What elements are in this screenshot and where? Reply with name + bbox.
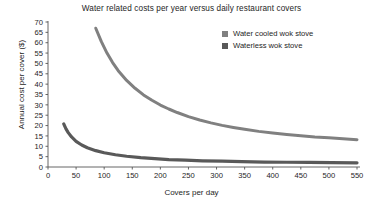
y-tick-label: 50: [35, 59, 43, 68]
x-tick-label: 300: [210, 171, 223, 180]
y-tick-label: 30: [35, 101, 43, 110]
x-tick-label: 0: [46, 171, 50, 180]
y-tick-label: 60: [35, 38, 43, 47]
series-line-2: [64, 124, 357, 163]
x-tick-label: 50: [72, 171, 80, 180]
x-tick-label: 100: [98, 171, 111, 180]
y-tick-label: 5: [39, 152, 43, 161]
y-tick-label: 35: [35, 90, 43, 99]
y-tick-label: 40: [35, 80, 43, 89]
y-tick-label: 55: [35, 49, 43, 58]
x-tick-label: 350: [238, 171, 251, 180]
x-tick-label: 200: [154, 171, 167, 180]
y-tick-label: 70: [35, 18, 43, 27]
y-tick-label: 65: [35, 28, 43, 37]
x-tick-label: 450: [294, 171, 307, 180]
y-tick-label: 0: [39, 163, 43, 172]
chart-root: Water related costs per year versus dail…: [0, 0, 383, 209]
x-tick-label: 250: [182, 171, 195, 180]
y-tick-label: 45: [35, 69, 43, 78]
series-line-1: [96, 28, 357, 139]
y-tick-label: 10: [35, 142, 43, 151]
x-tick-label: 550: [351, 171, 364, 180]
x-tick-label: 400: [266, 171, 279, 180]
x-tick-label: 150: [126, 171, 139, 180]
plot-area: 0510152025303540455055606570050100150200…: [0, 0, 383, 209]
x-tick-label: 500: [323, 171, 336, 180]
y-tick-label: 15: [35, 132, 43, 141]
y-tick-label: 25: [35, 111, 43, 120]
y-tick-label: 20: [35, 121, 43, 130]
